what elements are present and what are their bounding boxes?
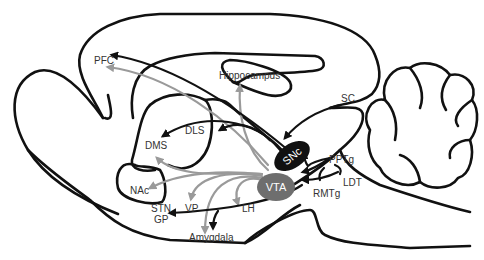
- gp-label: GP: [154, 214, 169, 225]
- cerebellum-fold-5: [450, 140, 470, 158]
- snc-to-dms-arrow: [163, 121, 282, 150]
- sc-label: SC: [341, 93, 355, 104]
- cerebellum-fold-3: [442, 75, 450, 110]
- vp-label: VP: [185, 203, 199, 214]
- cerebellum-fold-2: [410, 68, 422, 108]
- olfactory-bulb-outline: [15, 70, 118, 214]
- cerebellum-fold-4: [456, 100, 472, 126]
- nac-label: NAc: [130, 185, 149, 196]
- dms-label: DMS: [145, 140, 168, 151]
- amygdala-label: Amygdala: [189, 232, 234, 243]
- cortex-outline: [79, 14, 379, 118]
- dorsal-striatum-outline: [132, 105, 155, 171]
- cerebellum-fold-1: [385, 100, 396, 140]
- stn-label: STN: [151, 203, 171, 214]
- dls-label: DLS: [185, 125, 205, 136]
- pptg-label: PPTg: [329, 154, 354, 165]
- brainstem-outline: [245, 210, 470, 248]
- cerebellum-fold-6: [400, 155, 420, 182]
- hippocampus-label: Hippocampus: [219, 70, 280, 81]
- brain-circuit-diagram: SNc VTA PFC Hippocampus SC DLS DMS PPTg …: [0, 0, 484, 260]
- pfc-label: PFC: [94, 55, 114, 66]
- snc-to-amygdala-arrow: [213, 211, 218, 228]
- rmtg-label: RMTg: [313, 188, 340, 199]
- lh-label: LH: [242, 203, 255, 214]
- sc-to-snc-arrow: [285, 105, 340, 138]
- vta-label: VTA: [266, 181, 287, 193]
- vta-node: VTA: [257, 173, 295, 201]
- ldt-label: LDT: [343, 177, 362, 188]
- cerebellum-outline: [366, 63, 477, 187]
- cerebellum: [366, 63, 477, 187]
